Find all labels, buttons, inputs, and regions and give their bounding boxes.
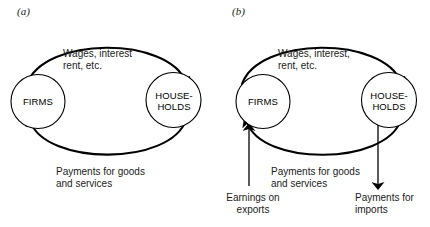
panel-a-diagram — [0, 0, 215, 227]
flow-label-payments-goods: Payments for goods and services — [271, 166, 401, 189]
node-label-firms: FIRMS — [233, 97, 293, 108]
flow-label-payments-goods: Payments for goods and services — [56, 166, 186, 189]
circular-flow-figure: (a) FIRMS HOUSE- HOLDS Wages, interest r… — [0, 0, 430, 227]
flow-label-payments-imports: Payments for imports — [355, 192, 430, 215]
flow-label-wages: Wages, interest, rent, etc. — [278, 48, 393, 71]
flow-label-wages: Wages, interest rent, etc. — [63, 48, 173, 71]
flow-label-earnings-exports: Earnings on exports — [215, 192, 291, 215]
panel-b: (b) — [215, 0, 430, 227]
node-label-firms: FIRMS — [8, 97, 68, 108]
panel-a: (a) FIRMS HOUSE- HOLDS Wages, interest r… — [0, 0, 215, 227]
node-label-households: HOUSE- HOLDS — [144, 91, 204, 112]
node-label-households: HOUSE- HOLDS — [359, 91, 419, 112]
